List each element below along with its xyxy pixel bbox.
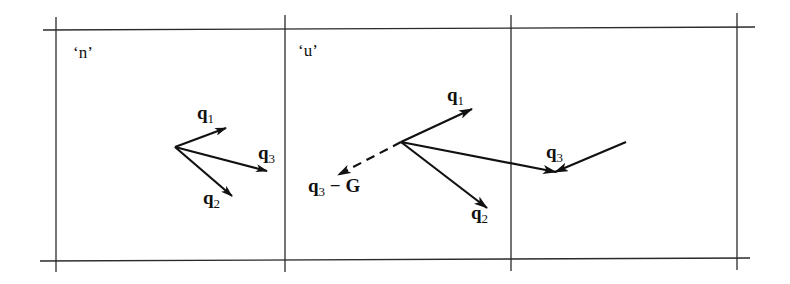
left-q1-label: q1 <box>197 102 214 126</box>
q3-minus-g-label: q3 − G <box>308 175 360 199</box>
middle-q1-arrow <box>401 109 472 142</box>
bottom-boundary-line <box>40 258 750 261</box>
middle-q2-arrow <box>401 142 487 208</box>
left-q2-label: q2 <box>203 187 220 211</box>
right-incoming-arrow <box>555 142 626 172</box>
middle-q1-label: q1 <box>447 84 464 108</box>
q3-minus-g-dashed-arrow <box>338 142 401 175</box>
middle-q3-label: q3 <box>546 141 563 165</box>
diagram-canvas: ‘n’ ‘u’ q1 q3 q2 q1 q2 q3 q3 − G <box>0 0 790 284</box>
top-boundary-line <box>43 27 755 30</box>
grid <box>40 13 755 272</box>
middle-cell-vectors <box>338 109 626 208</box>
cell-label-n: ‘n’ <box>73 43 93 62</box>
left-cell-vectors <box>175 128 267 196</box>
left-q1-arrow <box>175 128 226 147</box>
cell-label-u: ‘u’ <box>298 41 318 60</box>
middle-q3-arrow <box>401 142 556 172</box>
left-q3-label: q3 <box>258 142 275 166</box>
